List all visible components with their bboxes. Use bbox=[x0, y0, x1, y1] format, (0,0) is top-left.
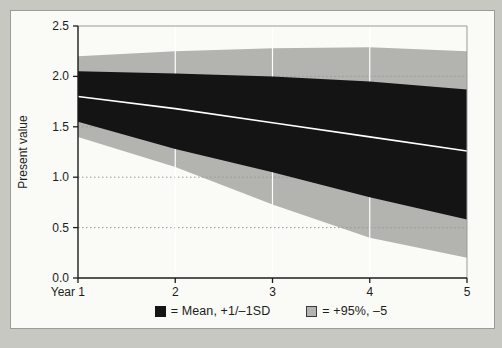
figure-panel: 0.00.51.01.52.02.5Year 12345Present valu… bbox=[10, 10, 495, 329]
x-tick-label: 5 bbox=[464, 285, 471, 299]
y-tick-label: 0.5 bbox=[52, 221, 69, 235]
x-tick-label: Year 1 bbox=[51, 285, 86, 299]
y-tick-label: 1.0 bbox=[52, 170, 69, 184]
legend-label-percentile: = +95%, –5 bbox=[322, 304, 387, 318]
y-tick-label: 2.0 bbox=[52, 69, 69, 83]
x-tick-label: 4 bbox=[366, 285, 373, 299]
y-tick-label: 2.5 bbox=[52, 19, 69, 33]
legend-label-mean-sd: = Mean, +1/–1SD bbox=[171, 304, 270, 318]
percentile-band-swatch-icon bbox=[306, 306, 317, 317]
y-tick-label: 0.0 bbox=[52, 271, 69, 285]
sd-band-swatch-icon bbox=[155, 306, 166, 317]
page-background: 0.00.51.01.52.02.5Year 12345Present valu… bbox=[0, 0, 502, 348]
fan-chart: 0.00.51.01.52.02.5Year 12345Present valu… bbox=[11, 11, 494, 328]
legend-item-mean-sd: = Mean, +1/–1SD bbox=[155, 304, 270, 318]
y-axis-title: Present value bbox=[16, 115, 30, 189]
x-tick-label: 2 bbox=[172, 285, 179, 299]
y-tick-label: 1.5 bbox=[52, 120, 69, 134]
x-tick-label: 3 bbox=[269, 285, 276, 299]
legend-item-percentile: = +95%, –5 bbox=[306, 304, 387, 318]
chart-legend: = Mean, +1/–1SD = +95%, –5 bbox=[71, 302, 471, 320]
